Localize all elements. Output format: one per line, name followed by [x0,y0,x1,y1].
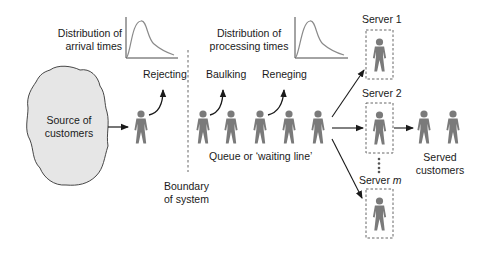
arrival-distribution-label: Distribution of arrival times [40,27,122,53]
arriving-customer-icon [134,110,147,143]
queue-customer-icon [224,110,237,143]
server-2-label: Server 2 [362,87,402,100]
served-customer-icon [446,110,459,143]
server-1-icon [373,38,386,71]
server-m-variable: m [393,174,402,186]
arrival-distribution-chart [126,17,178,58]
queue-customer-icon [196,110,209,143]
reneging-label: Reneging [262,68,307,81]
queue-label: Queue or ‘waiting line’ [209,150,312,163]
arrival-distribution-line2: arrival times [40,40,122,53]
processing-distribution-chart [295,17,348,58]
server-m-label: Server m [359,174,402,187]
more-servers-dots [378,158,381,174]
queue-customer-icon [311,110,324,143]
served-label-line1: Served [412,151,468,164]
queue-customer-icon [282,110,295,143]
processing-distribution-line1: Distribution of [206,27,292,40]
baulking-label: Baulking [206,68,246,81]
server-1-label: Server 1 [362,13,402,26]
served-customer-icon [417,110,430,143]
arrow-to-server-m [332,139,362,198]
source-label-line2: customers [36,127,102,140]
rejecting-label: Rejecting [143,68,187,81]
boundary-label: Boundary of system [164,180,209,206]
processing-distribution-line2: processing times [206,40,292,53]
processing-distribution-label: Distribution of processing times [206,27,292,53]
source-label-line1: Source of [36,114,102,127]
served-label-line2: customers [412,164,468,177]
arrival-distribution-line1: Distribution of [40,27,122,40]
server-2-icon [373,111,386,144]
reneging-arrow [268,90,284,115]
queueing-diagram: Source of customers Distribution of arri… [0,0,482,256]
boundary-label-line2: of system [164,193,209,206]
queue-customer-icon [253,110,266,143]
boundary-label-line1: Boundary [164,180,209,193]
source-label: Source of customers [36,114,102,140]
served-label: Served customers [412,151,468,177]
baulking-arrow [210,90,223,115]
server-m-icon [373,197,386,230]
rejecting-arrow [149,90,163,115]
arrow-to-server-1 [332,70,364,117]
server-m-prefix: Server [359,174,393,186]
